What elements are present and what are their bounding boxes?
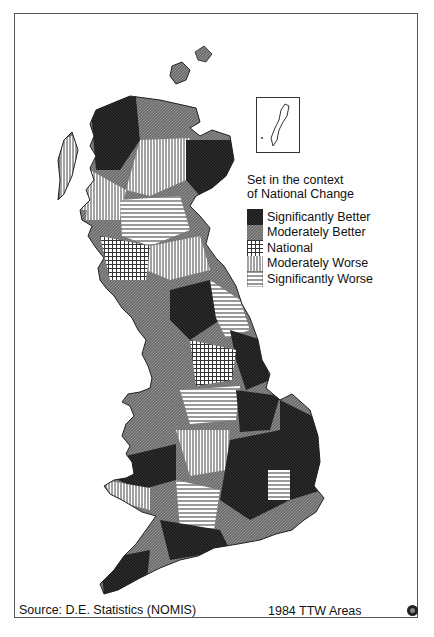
legend-label: Significantly Better — [267, 210, 371, 224]
shetland-islands-icon — [257, 98, 299, 152]
areas-caption: 1984 TTW Areas — [268, 604, 362, 618]
great-britain-map — [0, 0, 434, 637]
publisher-logo-icon — [407, 605, 418, 616]
legend-item-moderately-worse: Moderately Worse — [247, 256, 417, 272]
map-legend: Set in the context of National Change Si… — [247, 173, 417, 287]
swatch-horizontal-lines-icon — [247, 271, 263, 287]
legend-title-line2: of National Change — [247, 187, 417, 201]
source-caption: Source: D.E. Statistics (NOMIS) — [19, 603, 196, 617]
legend-item-national: National — [247, 240, 417, 256]
legend-label: Moderately Worse — [267, 256, 368, 270]
swatch-dark-crosshatch-icon — [247, 209, 263, 225]
legend-item-moderately-better: Moderately Better — [247, 225, 417, 241]
legend-item-significantly-better: Significantly Better — [247, 209, 417, 225]
legend-label: Moderately Better — [267, 225, 366, 239]
legend-label: National — [267, 241, 313, 255]
swatch-grid-hatch-icon — [247, 240, 263, 256]
legend-title-line1: Set in the context — [247, 173, 417, 187]
swatch-grey-hatch-icon — [247, 225, 263, 241]
shetland-inset — [256, 97, 300, 153]
swatch-vertical-lines-icon — [247, 256, 263, 272]
legend-label: Significantly Worse — [267, 272, 373, 286]
legend-item-significantly-worse: Significantly Worse — [247, 271, 417, 287]
orkney-islands — [195, 46, 212, 62]
